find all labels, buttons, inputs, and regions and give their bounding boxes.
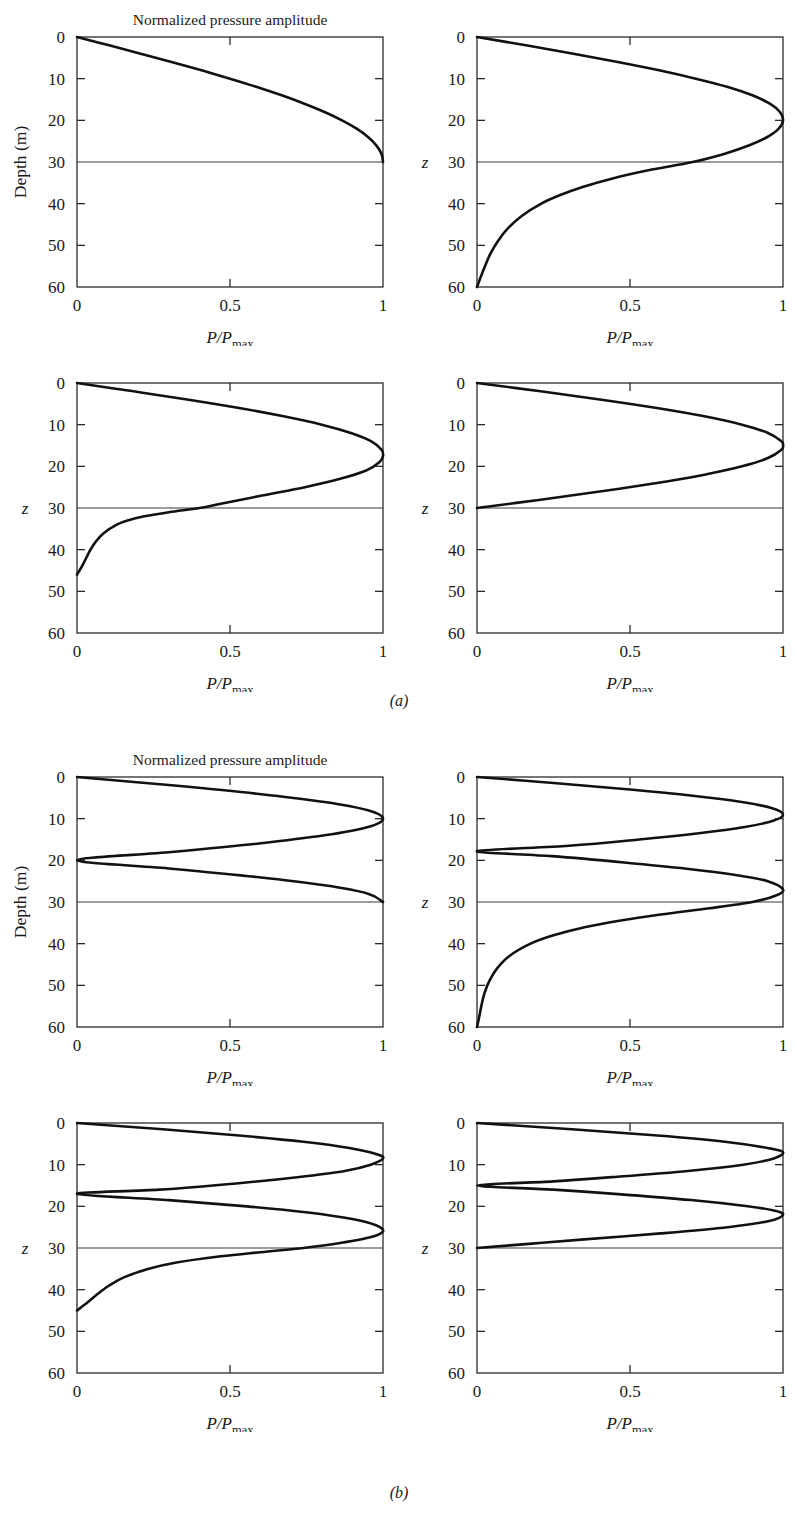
y-tick-label: 30	[48, 499, 65, 518]
x-axis-title: P/Pmax	[205, 328, 254, 346]
y-tick-label: 50	[48, 582, 65, 601]
y-tick-label: 0	[57, 1114, 66, 1133]
subfigure-label-a: (a)	[339, 692, 459, 710]
pressure-amplitude-curve	[477, 1123, 783, 1248]
y-tick-label: 20	[48, 111, 65, 130]
y-tick-label: 0	[57, 374, 66, 393]
y-tick-label: 30	[48, 1239, 65, 1258]
chart-panel-a3: 010203040506000.51P/Pmaxz	[0, 346, 399, 692]
x-axis-title: P/Pmax	[205, 1414, 254, 1432]
y-axis-title: z	[421, 499, 429, 518]
figure-root: Normalized pressure amplitude01020304050…	[0, 0, 799, 1531]
x-tick-label: 1	[779, 1382, 788, 1401]
y-tick-label: 10	[448, 70, 465, 89]
y-tick-label: 60	[48, 624, 65, 643]
x-tick-label: 1	[379, 642, 388, 661]
y-tick-label: 60	[48, 1364, 65, 1383]
y-tick-label: 40	[48, 541, 65, 560]
x-tick-label: 0.5	[619, 296, 640, 315]
y-tick-label: 40	[448, 935, 465, 954]
y-axis-title: z	[421, 153, 429, 172]
y-axis-title: Depth (m)	[10, 866, 30, 939]
y-tick-label: 0	[57, 28, 66, 47]
y-tick-label: 0	[57, 768, 66, 787]
x-tick-label: 0	[73, 642, 82, 661]
x-axis-title: P/Pmax	[605, 1068, 654, 1086]
pressure-amplitude-curve	[77, 37, 383, 162]
x-tick-label: 0	[473, 642, 482, 661]
pressure-amplitude-curve	[477, 383, 783, 508]
y-tick-label: 40	[48, 195, 65, 214]
plot-title: Normalized pressure amplitude	[133, 751, 328, 768]
x-tick-label: 0.5	[619, 1036, 640, 1055]
x-axis-title: P/Pmax	[605, 1414, 654, 1432]
x-tick-label: 1	[379, 1036, 388, 1055]
y-axis-title: Depth (m)	[10, 126, 30, 199]
y-tick-label: 30	[448, 499, 465, 518]
y-tick-label: 0	[457, 374, 466, 393]
y-tick-label: 10	[48, 416, 65, 435]
x-axis-title: P/Pmax	[605, 328, 654, 346]
y-tick-label: 20	[448, 111, 465, 130]
chart-panel-a4: 010203040506000.51P/Pmaxz	[400, 346, 799, 692]
chart-panel-b1: Normalized pressure amplitude01020304050…	[0, 740, 399, 1086]
y-tick-label: 50	[448, 236, 465, 255]
y-tick-label: 20	[448, 851, 465, 870]
pressure-amplitude-curve	[77, 1123, 383, 1311]
x-tick-label: 0.5	[219, 642, 240, 661]
y-tick-label: 50	[48, 1322, 65, 1341]
y-tick-label: 40	[448, 541, 465, 560]
y-tick-label: 30	[448, 153, 465, 172]
y-tick-label: 30	[448, 1239, 465, 1258]
x-tick-label: 1	[779, 1036, 788, 1055]
chart-panel-a2: 010203040506000.51P/Pmaxz	[400, 0, 799, 346]
y-tick-label: 20	[48, 457, 65, 476]
y-tick-label: 60	[48, 1018, 65, 1037]
y-tick-label: 0	[457, 1114, 466, 1133]
y-tick-label: 30	[448, 893, 465, 912]
x-tick-label: 1	[379, 1382, 388, 1401]
y-tick-label: 60	[448, 1364, 465, 1383]
y-axis-title: z	[421, 893, 429, 912]
y-axis-title: z	[21, 499, 29, 518]
y-tick-label: 20	[448, 1197, 465, 1216]
y-tick-label: 50	[48, 236, 65, 255]
x-tick-label: 0	[473, 1382, 482, 1401]
y-tick-label: 30	[48, 893, 65, 912]
y-tick-label: 40	[448, 1281, 465, 1300]
y-tick-label: 50	[448, 582, 465, 601]
x-tick-label: 0	[73, 1382, 82, 1401]
chart-panel-b3: 010203040506000.51P/Pmaxz	[0, 1086, 399, 1432]
x-axis-title: P/Pmax	[605, 674, 654, 692]
y-tick-label: 60	[48, 278, 65, 297]
x-tick-label: 1	[779, 642, 788, 661]
y-tick-label: 60	[448, 1018, 465, 1037]
x-tick-label: 0.5	[619, 642, 640, 661]
y-tick-label: 50	[448, 1322, 465, 1341]
y-tick-label: 20	[48, 1197, 65, 1216]
x-tick-label: 0.5	[619, 1382, 640, 1401]
x-axis-title: P/Pmax	[205, 674, 254, 692]
y-tick-label: 10	[448, 416, 465, 435]
chart-panel-b4: 010203040506000.51P/Pmaxz	[400, 1086, 799, 1432]
x-tick-label: 0	[473, 1036, 482, 1055]
x-axis-title: P/Pmax	[205, 1068, 254, 1086]
y-tick-label: 40	[448, 195, 465, 214]
y-tick-label: 10	[448, 810, 465, 829]
y-axis-title: z	[421, 1239, 429, 1258]
y-tick-label: 10	[48, 70, 65, 89]
y-tick-label: 40	[48, 1281, 65, 1300]
plot-title: Normalized pressure amplitude	[133, 11, 328, 28]
y-tick-label: 30	[48, 153, 65, 172]
y-axis-title: z	[21, 1239, 29, 1258]
chart-panel-a1: Normalized pressure amplitude01020304050…	[0, 0, 399, 346]
x-tick-label: 0.5	[219, 1036, 240, 1055]
pressure-amplitude-curve	[77, 383, 383, 575]
y-tick-label: 50	[48, 976, 65, 995]
y-tick-label: 10	[448, 1156, 465, 1175]
x-tick-label: 1	[379, 296, 388, 315]
y-tick-label: 0	[457, 28, 466, 47]
x-tick-label: 0.5	[219, 296, 240, 315]
y-tick-label: 40	[48, 935, 65, 954]
y-tick-label: 60	[448, 624, 465, 643]
